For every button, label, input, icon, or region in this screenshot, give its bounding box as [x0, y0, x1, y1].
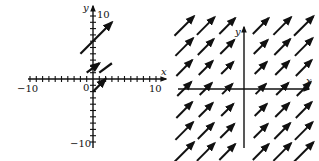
field-vector	[174, 16, 194, 36]
field-vector	[175, 38, 193, 56]
right-plot: x y	[174, 16, 313, 161]
left-plot: x y 0 −10 10 10 −10	[17, 2, 167, 149]
field-vector	[273, 143, 291, 161]
field-vector	[273, 17, 291, 35]
field-vector	[255, 62, 267, 74]
field-vector	[220, 124, 234, 138]
field-vector	[275, 103, 289, 117]
field-vector	[175, 122, 193, 140]
field-vector	[221, 62, 233, 74]
field-vector	[221, 104, 233, 116]
field-vector	[295, 122, 313, 140]
field-vector	[295, 38, 313, 56]
field-vector	[296, 60, 312, 76]
field-vector	[174, 142, 194, 161]
left-origin-label: 0	[83, 82, 89, 93]
field-vector	[198, 39, 214, 55]
field-vector	[274, 39, 290, 55]
field-vector	[219, 18, 235, 34]
left-x-min-label: −10	[17, 83, 38, 94]
field-vector	[176, 60, 192, 76]
field-vector	[275, 61, 289, 75]
field-vector	[253, 144, 269, 160]
left-x-axis-label: x	[161, 66, 167, 77]
field-vector	[199, 103, 213, 117]
left-x-max-label: 10	[149, 83, 162, 94]
field-vector	[294, 142, 314, 161]
field-vector	[255, 104, 267, 116]
field-vector	[254, 124, 268, 138]
field-vector	[219, 144, 235, 160]
field-vector	[199, 61, 213, 75]
field-vector	[220, 40, 234, 54]
field-vector	[253, 18, 269, 34]
vector-0	[80, 22, 112, 54]
field-vector	[197, 143, 215, 161]
left-y-min-label: −10	[70, 138, 91, 149]
right-y-axis-label: y	[234, 26, 241, 37]
figure: x y 0 −10 10 10 −10 x y	[0, 0, 319, 161]
field-vector	[294, 16, 314, 36]
field-vector	[198, 123, 214, 139]
field-vector	[197, 17, 215, 35]
field-vector	[274, 123, 290, 139]
field-vector	[296, 102, 312, 118]
vector-2	[99, 63, 112, 72]
field-vector	[254, 40, 268, 54]
left-y-max-label: 10	[97, 9, 110, 20]
field-vector	[176, 102, 192, 118]
left-y-axis-label: y	[82, 2, 89, 13]
